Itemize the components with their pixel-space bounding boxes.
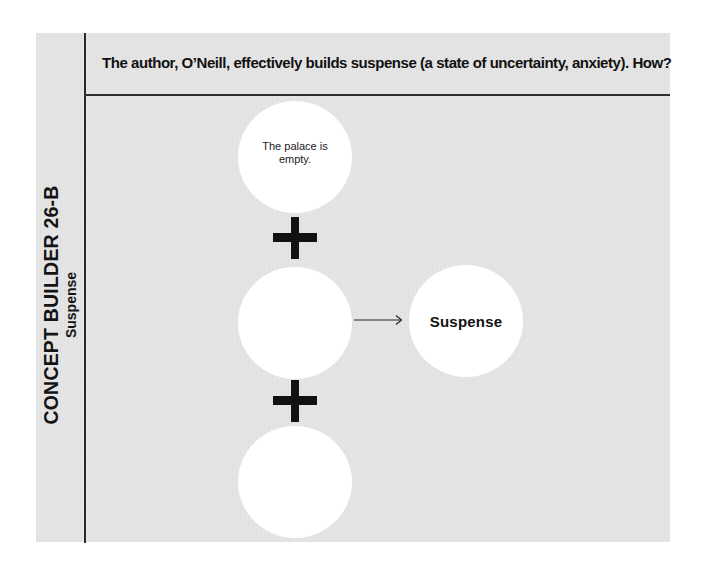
plus-icon [273, 217, 317, 259]
side-title: CONCEPT BUILDER 26-B Suspense [42, 185, 78, 424]
input-circle-3[interactable] [238, 426, 352, 538]
question-prompt: The author, O’Neill, effectively builds … [102, 54, 662, 71]
input-circle-1-text: The palace is empty. [255, 140, 335, 166]
plus-icon [273, 380, 317, 422]
header-divider [84, 94, 670, 96]
vertical-divider [84, 33, 86, 543]
worksheet-panel [36, 33, 670, 542]
concept-builder-title: CONCEPT BUILDER 26-B [42, 185, 62, 424]
result-circle-text: Suspense [430, 313, 502, 330]
result-circle: Suspense [409, 265, 523, 377]
input-circle-2[interactable] [238, 267, 352, 379]
input-circle-1[interactable]: The palace is empty. [238, 101, 352, 213]
arrow-right-icon [354, 314, 404, 326]
concept-builder-subtitle: Suspense [64, 185, 78, 424]
